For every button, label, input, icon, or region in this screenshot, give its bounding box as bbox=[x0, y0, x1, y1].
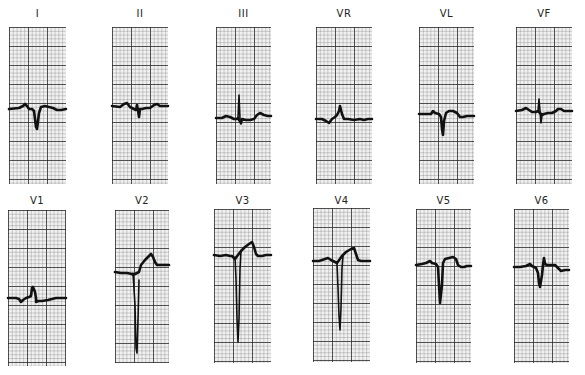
ecg-trace bbox=[216, 27, 271, 184]
lead-label: V3 bbox=[214, 195, 271, 206]
ecg-strip bbox=[216, 27, 271, 184]
ecg-trace bbox=[9, 27, 66, 184]
ecg-strip bbox=[214, 209, 271, 363]
lead-I: I bbox=[9, 0, 66, 185]
lead-VR: VR bbox=[316, 0, 372, 185]
lead-label: V4 bbox=[313, 195, 370, 206]
ecg-trace bbox=[514, 209, 569, 363]
ecg-trace bbox=[316, 27, 372, 184]
lead-V5: V5 bbox=[416, 188, 471, 368]
ecg-strip bbox=[514, 209, 569, 363]
lead-III: III bbox=[216, 0, 271, 185]
ecg-trace bbox=[115, 210, 169, 363]
lead-label: V5 bbox=[416, 195, 471, 206]
lead-label: I bbox=[9, 8, 66, 19]
ecg-trace bbox=[416, 209, 471, 363]
ecg-trace bbox=[516, 27, 572, 184]
lead-VF: VF bbox=[516, 0, 572, 185]
ecg-strip bbox=[313, 208, 370, 362]
lead-label: VF bbox=[516, 8, 572, 19]
ecg-trace bbox=[8, 210, 66, 366]
lead-V6: V6 bbox=[514, 188, 569, 368]
lead-V4: V4 bbox=[313, 188, 370, 368]
lead-label: III bbox=[216, 8, 271, 19]
ecg-strip bbox=[416, 209, 471, 363]
ecg-trace bbox=[214, 209, 271, 363]
lead-V3: V3 bbox=[214, 188, 271, 368]
ecg-strip bbox=[9, 27, 66, 184]
lead-label: V2 bbox=[115, 195, 169, 206]
ecg-strip bbox=[115, 210, 169, 363]
ecg-trace bbox=[313, 208, 370, 362]
lead-V2: V2 bbox=[115, 188, 169, 368]
lead-label: V6 bbox=[514, 195, 569, 206]
lead-II: II bbox=[112, 0, 168, 185]
ecg-strip bbox=[316, 27, 372, 184]
ecg-trace bbox=[112, 27, 168, 184]
lead-label: V1 bbox=[8, 195, 66, 206]
ecg-strip bbox=[419, 27, 474, 184]
ecg-trace bbox=[419, 27, 474, 184]
ecg-strip bbox=[112, 27, 168, 184]
lead-VL: VL bbox=[419, 0, 474, 185]
lead-label: II bbox=[112, 8, 168, 19]
lead-V1: V1 bbox=[8, 188, 66, 368]
lead-label: VL bbox=[419, 8, 474, 19]
lead-label: VR bbox=[316, 8, 372, 19]
ecg-strip bbox=[8, 210, 66, 366]
ecg-strip bbox=[516, 27, 572, 184]
